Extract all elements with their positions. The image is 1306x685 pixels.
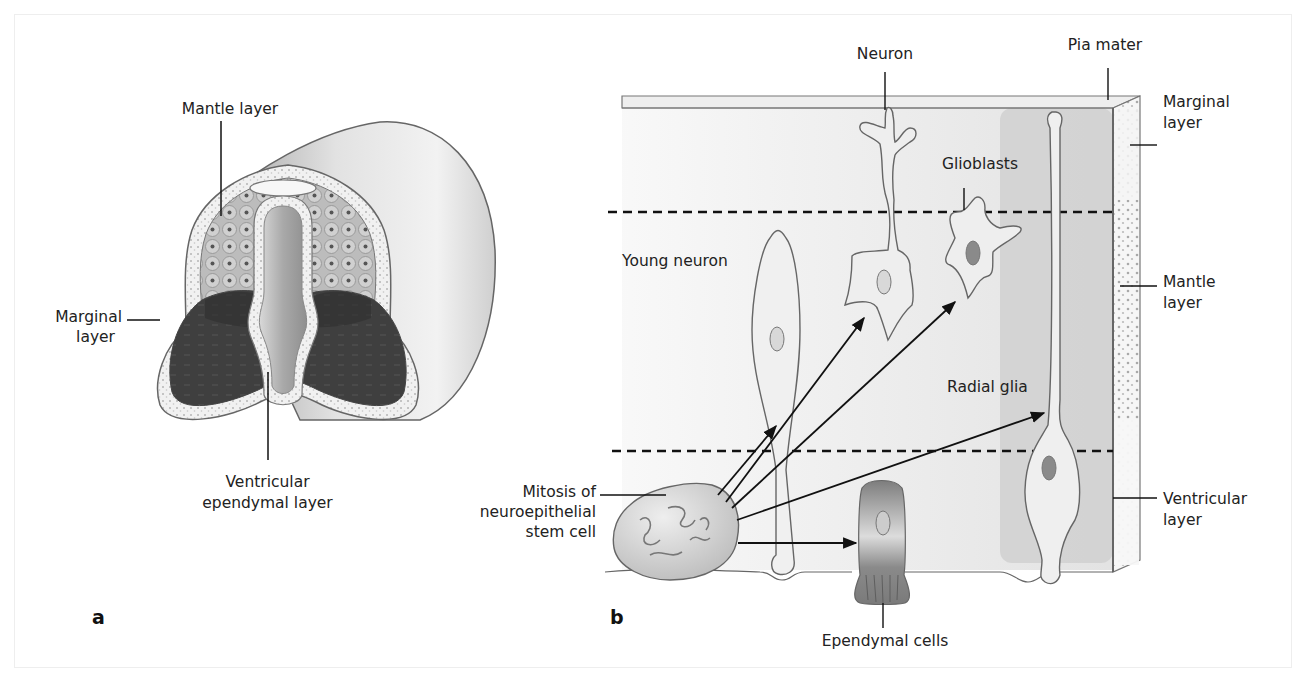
label-ventricular-ependymal-a-line1: Ventricular bbox=[190, 473, 345, 492]
panel-letter-a: a bbox=[92, 606, 105, 628]
label-mitosis-line2: neuroepithelial bbox=[460, 503, 596, 522]
label-young-neuron: Young neuron bbox=[622, 252, 728, 271]
label-marginal-layer-b-line2: layer bbox=[1163, 114, 1202, 133]
label-ventricular-layer-b-line1: Ventricular bbox=[1163, 490, 1247, 509]
label-ventricular-layer-b-line2: layer bbox=[1163, 511, 1202, 530]
label-marginal-layer-b-line1: Marginal bbox=[1163, 93, 1230, 112]
panel-letter-b: b bbox=[610, 606, 624, 628]
label-marginal-layer-a-line2: layer bbox=[30, 328, 115, 347]
label-pia-mater: Pia mater bbox=[1050, 36, 1160, 55]
panel-a-drawing bbox=[127, 121, 495, 460]
label-mantle-layer-b-line2: layer bbox=[1163, 294, 1202, 313]
label-mitosis-line3: stem cell bbox=[460, 523, 596, 542]
panel-b-drawing bbox=[600, 68, 1157, 628]
label-radial-glia: Radial glia bbox=[947, 378, 1028, 397]
label-mantle-layer-b-line1: Mantle bbox=[1163, 273, 1216, 292]
label-ventricular-ependymal-a-line2: ependymal layer bbox=[190, 494, 345, 513]
label-glioblasts: Glioblasts bbox=[925, 155, 1035, 174]
label-neuron: Neuron bbox=[835, 45, 935, 64]
label-mitosis-line1: Mitosis of bbox=[460, 483, 596, 502]
label-ependymal-cells: Ependymal cells bbox=[810, 632, 960, 651]
label-marginal-layer-a-line1: Marginal bbox=[30, 308, 122, 327]
label-mantle-layer-a: Mantle layer bbox=[170, 100, 290, 119]
